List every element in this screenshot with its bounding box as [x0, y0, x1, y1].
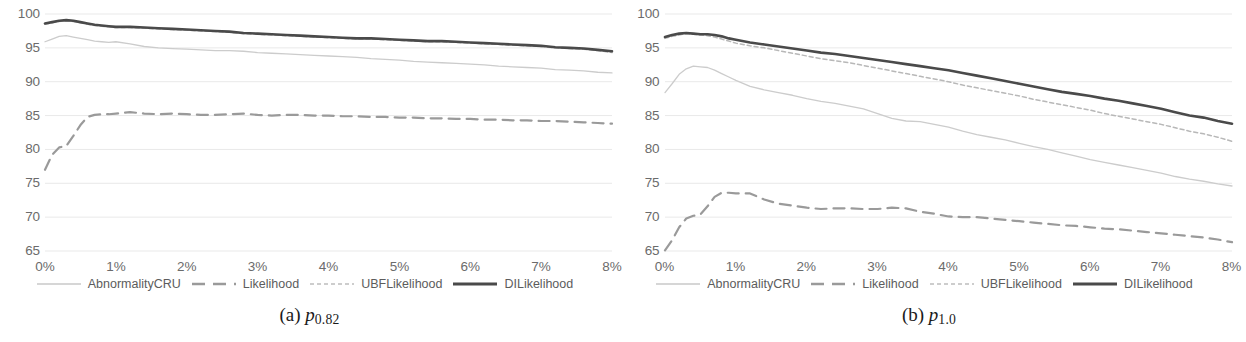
- caption-a-subscript: 0.82: [315, 312, 340, 327]
- x-axis-tick-label: 2%: [167, 260, 207, 274]
- legend-swatch-ubflikelihood: [309, 278, 355, 290]
- x-axis-tick-label: 4%: [309, 260, 349, 274]
- x-axis-tick-label: 4%: [928, 260, 968, 274]
- legend-item-abnormalitycru[interactable]: AbnormalityCRU: [36, 278, 181, 291]
- x-axis-ticks-a: 0%1%2%3%4%5%6%7%8%: [0, 0, 619, 268]
- caption-a: (a) p0.82: [0, 304, 619, 328]
- plot-area-b: 10095908580757065 0%1%2%3%4%5%6%7%8%: [620, 0, 1239, 268]
- caption-b-tag: (b): [902, 304, 924, 325]
- legend-item-ubflikelihood[interactable]: UBFLikelihood: [309, 278, 442, 291]
- x-axis-tick-label: 2%: [786, 260, 826, 274]
- caption-a-tag: (a): [279, 304, 300, 325]
- legend-label: DILikelihood: [1124, 278, 1193, 291]
- caption-b: (b) p1.0: [620, 304, 1239, 328]
- legend-item-dilikelihood[interactable]: DILikelihood: [1072, 278, 1193, 291]
- legend-item-abnormalitycru[interactable]: AbnormalityCRU: [655, 278, 800, 291]
- legend-item-likelihood[interactable]: Likelihood: [191, 278, 299, 291]
- legend-label: UBFLikelihood: [981, 278, 1062, 291]
- x-axis-tick-label: 1%: [96, 260, 136, 274]
- legend-label: AbnormalityCRU: [88, 278, 181, 291]
- plot-area-a: 10095908580757065 0%1%2%3%4%5%6%7%8%: [0, 0, 619, 268]
- legend-swatch-likelihood: [810, 278, 856, 290]
- x-axis-tick-label: 8%: [1212, 260, 1246, 274]
- legend-item-ubflikelihood[interactable]: UBFLikelihood: [929, 278, 1062, 291]
- caption-b-symbol: p: [929, 304, 939, 325]
- x-axis-tick-label: 7%: [1141, 260, 1181, 274]
- legend-item-dilikelihood[interactable]: DILikelihood: [452, 278, 573, 291]
- chart-panel-a: 10095908580757065 0%1%2%3%4%5%6%7%8% Abn…: [0, 0, 620, 342]
- legend-item-likelihood[interactable]: Likelihood: [810, 278, 918, 291]
- legend-swatch-dilikelihood: [452, 278, 498, 290]
- x-axis-tick-label: 7%: [521, 260, 561, 274]
- caption-a-symbol: p: [305, 304, 315, 325]
- x-axis-tick-label: 3%: [857, 260, 897, 274]
- x-axis-tick-label: 5%: [999, 260, 1039, 274]
- legend-swatch-ubflikelihood: [929, 278, 975, 290]
- legend-swatch-likelihood: [191, 278, 237, 290]
- legend-swatch-abnormalitycru: [36, 278, 82, 290]
- x-axis-tick-label: 5%: [379, 260, 419, 274]
- chart-legend-a: AbnormalityCRULikelihoodUBFLikelihoodDIL…: [0, 278, 619, 291]
- x-axis-ticks-b: 0%1%2%3%4%5%6%7%8%: [620, 0, 1239, 268]
- legend-swatch-dilikelihood: [1072, 278, 1118, 290]
- legend-label: AbnormalityCRU: [707, 278, 800, 291]
- x-axis-tick-label: 6%: [1070, 260, 1110, 274]
- legend-label: Likelihood: [243, 278, 299, 291]
- x-axis-tick-label: 3%: [238, 260, 278, 274]
- x-axis-tick-label: 0%: [25, 260, 65, 274]
- x-axis-tick-label: 1%: [715, 260, 755, 274]
- caption-b-subscript: 1.0: [938, 312, 956, 327]
- x-axis-tick-label: 6%: [450, 260, 490, 274]
- legend-label: DILikelihood: [504, 278, 573, 291]
- legend-label: Likelihood: [862, 278, 918, 291]
- legend-swatch-abnormalitycru: [655, 278, 701, 290]
- chart-legend-b: AbnormalityCRULikelihoodUBFLikelihoodDIL…: [620, 278, 1239, 291]
- legend-label: UBFLikelihood: [361, 278, 442, 291]
- x-axis-tick-label: 0%: [645, 260, 685, 274]
- chart-panel-b: 10095908580757065 0%1%2%3%4%5%6%7%8% Abn…: [620, 0, 1240, 342]
